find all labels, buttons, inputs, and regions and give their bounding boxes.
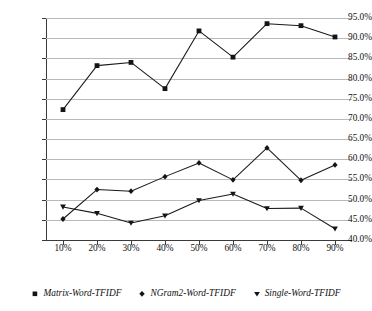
y-axis-tick-mark	[42, 58, 46, 59]
legend-marker-triangle-down-icon	[253, 289, 261, 298]
legend-item-label: Matrix-Word-TFIDF	[43, 288, 121, 298]
y-axis-tick-label: 65.0%	[328, 134, 372, 143]
legend-item: Matrix-Word-TFIDF	[31, 288, 121, 298]
y-axis-tick-mark	[42, 18, 46, 19]
y-axis-tick-label: 45.0%	[328, 215, 372, 224]
legend-item: Single-Word-TFIDF	[253, 288, 341, 298]
y-axis-tick-mark	[42, 179, 46, 180]
y-axis-tick-label: 75.0%	[328, 94, 372, 103]
y-axis-tick-label: 80.0%	[328, 74, 372, 83]
y-axis-tick-label: 90.0%	[328, 33, 372, 42]
gridline	[46, 139, 352, 140]
gridline	[46, 79, 352, 80]
gridline	[46, 159, 352, 160]
legend-item-label: Single-Word-TFIDF	[265, 288, 341, 298]
gridline	[46, 99, 352, 100]
y-axis-tick-mark	[42, 139, 46, 140]
y-axis-tick-label: 50.0%	[328, 195, 372, 204]
gridline	[46, 179, 352, 180]
y-axis-tick-label: 70.0%	[328, 114, 372, 123]
y-axis-tick-mark	[42, 79, 46, 80]
y-axis-tick-mark	[42, 200, 46, 201]
x-axis-tick-label: 90%	[315, 244, 355, 253]
legend-marker-diamond-icon	[138, 289, 146, 298]
gridline	[46, 119, 352, 120]
line-chart: 40.0%45.0%50.0%55.0%60.0%65.0%70.0%75.0%…	[0, 0, 372, 311]
legend-item-label: NGram2-Word-TFIDF	[150, 288, 235, 298]
gridline	[46, 58, 352, 59]
y-axis-tick-mark	[42, 159, 46, 160]
legend-item: NGram2-Word-TFIDF	[138, 288, 235, 298]
plot-area	[46, 18, 352, 240]
legend-marker-square-icon	[31, 289, 39, 298]
y-axis-tick-mark	[42, 119, 46, 120]
chart-legend: Matrix-Word-TFIDFNGram2-Word-TFIDFSingle…	[0, 288, 372, 298]
gridline	[46, 38, 352, 39]
y-axis-tick-mark	[42, 220, 46, 221]
y-axis-tick-label: 60.0%	[328, 154, 372, 163]
y-axis-tick-label: 85.0%	[328, 53, 372, 62]
y-axis-tick-mark	[42, 38, 46, 39]
y-axis-tick-label: 95.0%	[328, 13, 372, 22]
y-axis-line	[46, 18, 47, 241]
gridline	[46, 18, 352, 19]
y-axis-tick-mark	[42, 99, 46, 100]
y-axis-tick-mark	[42, 240, 46, 241]
gridline	[46, 220, 352, 221]
gridline	[46, 200, 352, 201]
y-axis-tick-label: 55.0%	[328, 174, 372, 183]
